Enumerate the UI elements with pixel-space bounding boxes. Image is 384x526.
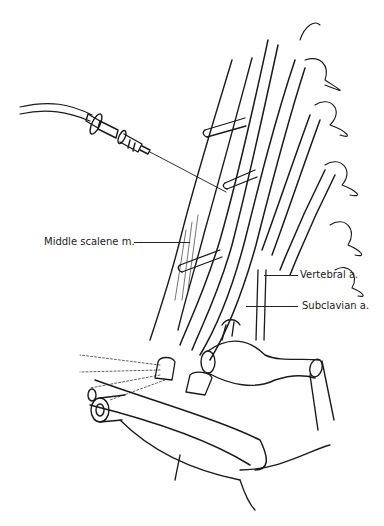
brachial-plexus-nerves bbox=[180, 40, 335, 360]
injection-spread bbox=[80, 355, 165, 400]
middle-scalene-muscle bbox=[150, 58, 252, 340]
clavicle bbox=[90, 380, 266, 470]
vertebral-artery bbox=[256, 270, 266, 340]
needle bbox=[150, 152, 226, 192]
leader-line-middle-scalene bbox=[134, 242, 190, 243]
anatomical-illustration: Middle scalene m. Vertebral a. Subclavia… bbox=[0, 0, 384, 526]
label-middle-scalene: Middle scalene m. bbox=[44, 236, 135, 248]
line-art-drawing bbox=[0, 0, 384, 526]
subclavian-artery bbox=[201, 320, 334, 430]
label-subclavian-artery: Subclavian a. bbox=[302, 300, 369, 312]
shoulder-outline bbox=[120, 420, 330, 510]
transverse-processes bbox=[300, 23, 363, 296]
leader-line-subclavian bbox=[246, 306, 298, 307]
catheter-tube bbox=[20, 104, 92, 121]
needle-hub bbox=[86, 112, 150, 154]
label-vertebral-artery: Vertebral a. bbox=[300, 269, 358, 281]
cut-muscle-stubs bbox=[155, 358, 212, 396]
leader-line-vertebral bbox=[264, 275, 298, 276]
